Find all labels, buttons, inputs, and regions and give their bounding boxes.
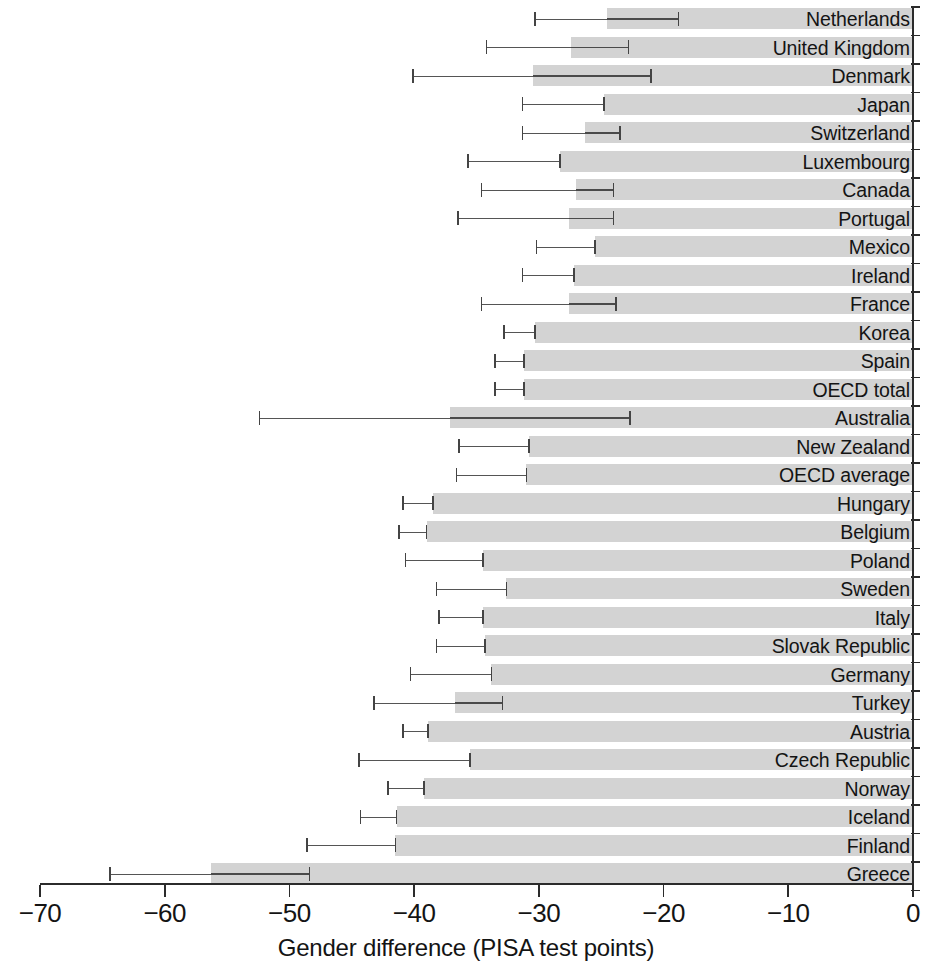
category-label-australia: Australia <box>835 408 910 429</box>
error-bar-cap-high <box>395 838 397 852</box>
error-bar-line <box>399 532 426 533</box>
x-axis-tick <box>787 885 789 897</box>
error-bar-cap-high <box>491 667 493 681</box>
error-bar-cap-low <box>358 753 360 767</box>
category-label-turkey: Turkey <box>852 693 910 714</box>
error-bar-line <box>410 674 491 675</box>
error-bar-cap-low <box>109 867 111 881</box>
bar-row: Hungary <box>0 492 932 521</box>
error-bar-cap-high <box>613 211 615 225</box>
error-bar-cap-low <box>536 240 538 254</box>
category-label-germany: Germany <box>831 665 911 686</box>
x-axis-tick-label: −30 <box>518 898 561 929</box>
bar <box>424 778 913 799</box>
bar-row: Iceland <box>0 805 932 834</box>
error-bar-cap-high <box>678 12 680 26</box>
error-bar-line-overlap <box>533 75 651 77</box>
category-label-luxembourg: Luxembourg <box>803 152 910 173</box>
category-label-switzerland: Switzerland <box>810 123 910 144</box>
bar-row: Czech Republic <box>0 748 932 777</box>
x-axis-tick-label: −20 <box>642 898 685 929</box>
bar-row: Portugal <box>0 207 932 236</box>
x-axis-tick-label: −50 <box>268 898 311 929</box>
error-bar-cap-low <box>436 582 438 596</box>
error-bar-cap-low <box>387 781 389 795</box>
bar-row: OECD average <box>0 463 932 492</box>
bar <box>428 721 913 742</box>
category-label-sweden: Sweden <box>840 579 910 600</box>
error-bar-line <box>388 788 424 789</box>
bar-row: Sweden <box>0 577 932 606</box>
error-bar-cap-high <box>482 610 484 624</box>
error-bar-cap-low <box>486 40 488 54</box>
category-label-netherlands: Netherlands <box>806 9 910 30</box>
error-bar-cap-low <box>467 154 469 168</box>
error-bar-line <box>405 560 482 561</box>
error-bar-cap-low <box>402 496 404 510</box>
error-bar-cap-high <box>603 97 605 111</box>
error-bar-line <box>403 731 428 732</box>
error-bar-cap-high <box>594 240 596 254</box>
bar-row: Italy <box>0 606 932 635</box>
error-bar-line <box>359 760 470 761</box>
bar <box>483 550 913 571</box>
category-label-poland: Poland <box>850 551 910 572</box>
category-label-italy: Italy <box>875 608 910 629</box>
bar-row: Turkey <box>0 691 932 720</box>
x-axis-tick <box>413 885 415 897</box>
category-label-mexico: Mexico <box>849 237 910 258</box>
error-bar-cap-high <box>482 553 484 567</box>
error-bar-cap-low <box>534 12 536 26</box>
bar-row: Denmark <box>0 64 932 93</box>
x-axis-tick-label: −10 <box>767 898 810 929</box>
bar-row: Poland <box>0 549 932 578</box>
bar <box>395 835 913 856</box>
x-axis-tick <box>289 885 291 897</box>
x-axis-tick <box>164 885 166 897</box>
category-label-oecd-total: OECD total <box>812 380 910 401</box>
category-label-korea: Korea <box>858 323 910 344</box>
error-bar-cap-low <box>402 724 404 738</box>
category-label-spain: Spain <box>861 351 910 372</box>
category-label-france: France <box>850 294 910 315</box>
error-bar-line <box>523 104 604 105</box>
category-label-czech-republic: Czech Republic <box>775 750 910 771</box>
error-bar-cap-low <box>494 382 496 396</box>
bar-row: Finland <box>0 834 932 863</box>
bar-row: Spain <box>0 349 932 378</box>
error-bar-cap-high <box>615 297 617 311</box>
category-label-slovak-republic: Slovak Republic <box>772 636 910 657</box>
bar-row: Australia <box>0 406 932 435</box>
error-bar-cap-high <box>506 582 508 596</box>
bar-row: Japan <box>0 93 932 122</box>
bar-row: Norway <box>0 777 932 806</box>
error-bar-line-overlap <box>569 303 616 305</box>
error-bar-cap-low <box>405 553 407 567</box>
bar-row: Canada <box>0 178 932 207</box>
bar <box>455 692 913 713</box>
error-bar-line <box>523 275 574 276</box>
error-bar-cap-low <box>494 354 496 368</box>
error-bar-cap-high <box>523 354 525 368</box>
category-label-new-zealand: New Zealand <box>796 437 910 458</box>
error-bar-cap-high <box>432 496 434 510</box>
bar-row: Mexico <box>0 235 932 264</box>
bar <box>524 350 913 371</box>
error-bar-cap-high <box>619 126 621 140</box>
error-bar-cap-low <box>481 297 483 311</box>
error-bar-line <box>439 617 483 618</box>
error-bar-line <box>457 475 527 476</box>
error-bar-cap-high <box>423 781 425 795</box>
bar-row: France <box>0 292 932 321</box>
error-bar-cap-high <box>534 325 536 339</box>
error-bar-line <box>504 332 535 333</box>
error-bar-cap-high <box>502 696 504 710</box>
x-axis-spine <box>40 883 914 885</box>
error-bar-cap-low <box>457 211 459 225</box>
bar-row: Ireland <box>0 264 932 293</box>
error-bar-cap-high <box>650 69 652 83</box>
error-bar-cap-high <box>629 411 631 425</box>
bar <box>535 322 913 343</box>
x-axis-tick-label: −70 <box>19 898 62 929</box>
category-label-belgium: Belgium <box>840 522 910 543</box>
